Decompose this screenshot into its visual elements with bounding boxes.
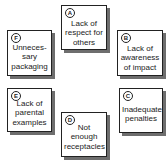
box-b-label: Lack of awareness of impact xyxy=(120,44,160,72)
box-e-label: Lack of parental examples xyxy=(10,99,49,127)
badge-c: C xyxy=(123,91,133,101)
box-c-line-2: penalties xyxy=(122,114,160,123)
box-e-line-2: parental xyxy=(10,108,49,117)
box-d-line-2: enough xyxy=(64,132,104,141)
box-b-lack-of-awareness: B Lack of awareness of impact xyxy=(117,30,163,76)
box-e-line-1: Lack of xyxy=(10,99,49,108)
box-b-line-2: awareness xyxy=(120,53,160,62)
box-d-line-3: receptacles xyxy=(64,142,104,151)
box-f-label: Unneces- sary packaging xyxy=(10,43,49,71)
box-e-lack-of-parental-examples: E Lack of parental examples xyxy=(7,88,52,132)
box-a-line-2: respect for xyxy=(64,28,104,37)
box-a-lack-of-respect: A Lack of respect for others xyxy=(61,5,107,50)
badge-f: F xyxy=(11,33,21,43)
box-b-line-1: Lack of xyxy=(120,44,160,53)
box-f-unnecessary-packaging: F Unneces- sary packaging xyxy=(7,30,52,76)
box-f-line-1: Unneces- xyxy=(10,43,49,52)
box-f-line-3: packaging xyxy=(10,62,49,71)
box-e-line-3: examples xyxy=(10,118,49,127)
box-d-label: Not enough receptacles xyxy=(64,123,104,151)
badge-a: A xyxy=(65,8,75,18)
box-d-line-1: Not xyxy=(64,123,104,132)
box-c-line-1: Inadequate xyxy=(122,105,160,114)
box-d-not-enough-receptacles: D Not enough receptacles xyxy=(61,112,107,157)
box-a-line-3: others xyxy=(64,38,104,47)
box-b-line-3: of impact xyxy=(120,63,160,72)
box-c-label: Inadequate penalties xyxy=(122,105,160,124)
box-c-inadequate-penalties: C Inadequate penalties xyxy=(119,88,163,133)
box-a-label: Lack of respect for others xyxy=(64,19,104,47)
box-f-line-2: sary xyxy=(10,52,49,61)
box-a-line-1: Lack of xyxy=(64,19,104,28)
badge-b: B xyxy=(121,33,131,43)
